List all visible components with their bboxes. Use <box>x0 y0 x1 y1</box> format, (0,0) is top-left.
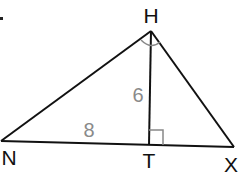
vertex-label-T: T <box>143 150 156 171</box>
right-angle-mark-T <box>149 130 163 145</box>
measure-HT: 6 <box>132 85 143 105</box>
vertex-label-N: N <box>1 147 16 168</box>
triangle-diagram <box>0 0 242 189</box>
vertex-label-X: X <box>224 154 238 175</box>
measure-NT: 8 <box>83 120 94 140</box>
altitude-HT <box>149 31 151 145</box>
segment-NX <box>1 141 234 147</box>
stray-dot <box>0 17 3 20</box>
segment-NH <box>1 31 151 141</box>
vertex-label-H: H <box>143 5 158 26</box>
